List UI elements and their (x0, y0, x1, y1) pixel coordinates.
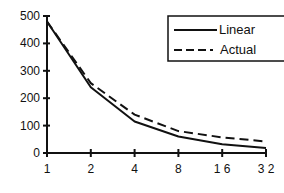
x-tick-label: 1 (44, 162, 51, 176)
legend-label-actual: Actual (220, 42, 256, 57)
legend: Linear Actual (168, 16, 284, 61)
x-tick-label: 8 (175, 162, 182, 176)
x-tick-label: 4 (131, 162, 138, 176)
y-tick-label: 0 (33, 146, 40, 160)
x-tick-label: 3 2 (258, 162, 275, 176)
legend-label-linear: Linear (219, 22, 256, 37)
x-tick-label: 1 6 (214, 162, 231, 176)
line-chart: 010020030040050012481 63 2 Linear Actual (0, 0, 284, 193)
y-tick-label: 300 (20, 64, 40, 78)
y-tick-label: 400 (20, 36, 40, 50)
y-tick-label: 100 (20, 119, 40, 133)
x-tick-label: 2 (87, 162, 94, 176)
y-tick-label: 200 (20, 91, 40, 105)
y-tick-label: 500 (20, 9, 40, 23)
